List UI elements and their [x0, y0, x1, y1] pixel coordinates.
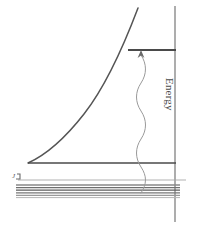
photon-transition-arrow[interactable]	[137, 55, 146, 193]
photon-arrow-head-icon	[138, 50, 145, 58]
repulsive-potential-curve	[28, 8, 138, 163]
energy-level-diagram: Energy J	[0, 0, 200, 227]
ground-state-tick-icon	[16, 174, 20, 179]
ground-state-label: J	[12, 172, 15, 180]
energy-axis-label: Energy	[164, 78, 176, 148]
vibrational-band-lines	[16, 185, 180, 198]
